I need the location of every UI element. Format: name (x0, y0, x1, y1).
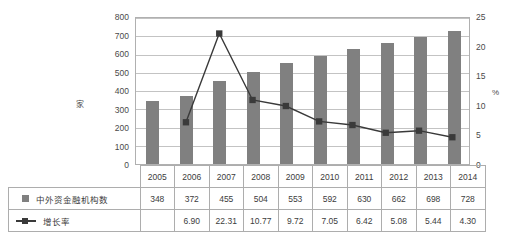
year-header-2010: 2010 (313, 166, 348, 188)
legend-cell-institutions: 中外资金融机构数 (9, 188, 141, 210)
right-tick-10: 10 (476, 102, 510, 111)
legend-label: 中外资金融机构数 (36, 193, 108, 205)
left-tick-600: 600 (95, 50, 129, 59)
cell-2006: 6.90 (175, 210, 210, 232)
left-tick-800: 800 (95, 13, 129, 22)
cell-2010: 7.05 (313, 210, 348, 232)
year-header-2005: 2005 (140, 166, 175, 188)
legend-cell-growth-rate: 增长率 (9, 210, 141, 232)
right-tick-25: 25 (476, 13, 510, 22)
bar-2012 (381, 43, 394, 164)
bar-2009 (280, 63, 293, 164)
year-header-2009: 2009 (278, 166, 313, 188)
year-header-2007: 2007 (209, 166, 244, 188)
left-tick-500: 500 (95, 69, 129, 78)
bar-swatch-icon (22, 195, 29, 202)
bar-2010 (314, 56, 327, 164)
cell-2009: 9.72 (278, 210, 313, 232)
year-header-2011: 2011 (347, 166, 382, 188)
bar-2008 (247, 72, 260, 164)
bar-2005 (146, 101, 159, 165)
right-axis-title: % (492, 88, 499, 97)
cell-2012: 5.08 (382, 210, 417, 232)
line-marker-icon (16, 217, 36, 224)
bar-2007 (213, 81, 226, 164)
plot-area (135, 17, 470, 165)
left-tick-700: 700 (95, 32, 129, 41)
gridline (136, 18, 469, 19)
cell-2009: 553 (278, 188, 313, 210)
bar-2013 (414, 37, 427, 164)
cell-2007: 22.31 (209, 210, 244, 232)
table-header-row: 2005200620072008200920102011201220132014 (9, 166, 486, 188)
year-header-2006: 2006 (175, 166, 210, 188)
cell-2013: 5.44 (416, 210, 451, 232)
cell-2014: 4.30 (451, 210, 486, 232)
bar-2014 (448, 31, 461, 164)
table-corner-cell (9, 166, 141, 188)
bar-2006 (180, 96, 193, 164)
cell-2011: 6.42 (347, 210, 382, 232)
cell-2005 (140, 210, 175, 232)
right-tick-15: 15 (476, 72, 510, 81)
right-tick-20: 20 (476, 43, 510, 52)
left-axis-title: 家 (76, 98, 84, 109)
cell-2012: 662 (382, 188, 417, 210)
cell-2006: 372 (175, 188, 210, 210)
legend-label: 增长率 (43, 215, 70, 227)
cell-2011: 630 (347, 188, 382, 210)
right-tick-5: 5 (476, 131, 510, 140)
left-tick-100: 100 (95, 143, 129, 152)
year-header-2012: 2012 (382, 166, 417, 188)
cell-2008: 504 (244, 188, 279, 210)
data-table: 2005200620072008200920102011201220132014… (8, 165, 486, 232)
left-tick-300: 300 (95, 106, 129, 115)
table-row: 增长率6.9022.3110.779.727.056.425.085.444.3… (9, 210, 486, 232)
cell-2014: 728 (451, 188, 486, 210)
cell-2010: 592 (313, 188, 348, 210)
cell-2007: 455 (209, 188, 244, 210)
left-tick-400: 400 (95, 87, 129, 96)
cell-2013: 698 (416, 188, 451, 210)
chart-figure: 8007006005004003002001000 家 2520151050 %… (0, 0, 517, 238)
table-row: 中外资金融机构数348372455504553592630662698728 (9, 188, 486, 210)
cell-2008: 10.77 (244, 210, 279, 232)
bar-2011 (347, 49, 360, 164)
left-tick-200: 200 (95, 124, 129, 133)
year-header-2008: 2008 (244, 166, 279, 188)
cell-2005: 348 (140, 188, 175, 210)
year-header-2014: 2014 (451, 166, 486, 188)
year-header-2013: 2013 (416, 166, 451, 188)
